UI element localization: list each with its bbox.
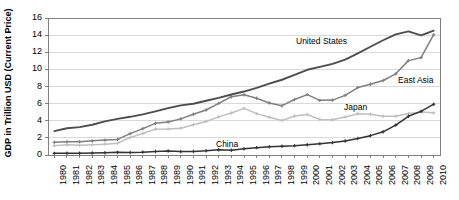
series-marker [53, 141, 56, 144]
series-label-japan: Japan [344, 102, 367, 112]
series-marker [65, 152, 68, 155]
series-label-china: China [216, 139, 238, 149]
series-marker [268, 145, 271, 148]
series-marker [280, 144, 283, 147]
series-marker [356, 112, 359, 115]
series-marker [369, 134, 372, 137]
series-marker [65, 143, 68, 146]
series-marker [78, 140, 81, 143]
series-marker [78, 152, 81, 155]
series-marker [343, 139, 346, 142]
series-marker [293, 144, 296, 147]
series-marker [381, 115, 384, 118]
series-marker [318, 142, 321, 145]
series-line-east-asia [54, 35, 433, 143]
series-marker [91, 151, 94, 154]
series-line-united-states [54, 31, 433, 131]
series-japan [53, 107, 436, 148]
series-marker [331, 141, 334, 144]
series-marker [166, 127, 169, 130]
series-marker [343, 115, 346, 118]
series-marker [255, 146, 258, 149]
series-marker [192, 150, 195, 153]
series-marker [394, 115, 397, 118]
series-label-east-asia: East Asia [398, 75, 433, 85]
series-marker [128, 151, 131, 154]
series-marker [369, 113, 372, 116]
series-marker [91, 139, 94, 142]
series-marker [306, 143, 309, 146]
series-marker [166, 149, 169, 152]
series-marker [141, 150, 144, 153]
series-marker [65, 140, 68, 143]
series-marker [242, 147, 245, 150]
series-marker [242, 93, 245, 96]
series-marker [103, 151, 106, 154]
series-marker [154, 150, 157, 153]
series-line-china [54, 104, 433, 153]
series-marker [268, 116, 271, 119]
series-marker [179, 126, 182, 129]
series-marker [116, 151, 119, 154]
series-marker [103, 142, 106, 145]
series-marker [356, 137, 359, 140]
plot-area [0, 0, 459, 200]
series-marker [103, 138, 106, 141]
series-marker [91, 143, 94, 146]
series-marker [53, 144, 56, 147]
series-marker [179, 150, 182, 153]
gdp-line-chart: GDP in Trillion USD (Current Price) 0246… [0, 0, 459, 200]
series-united-states [54, 31, 433, 131]
series-label-united-states: United States [296, 36, 347, 46]
series-china [53, 103, 436, 156]
series-marker [369, 83, 372, 86]
series-east-asia [53, 33, 436, 144]
series-marker [192, 123, 195, 126]
series-marker [204, 149, 207, 152]
series-marker [78, 144, 81, 147]
series-marker [230, 149, 233, 152]
series-marker [432, 111, 435, 114]
